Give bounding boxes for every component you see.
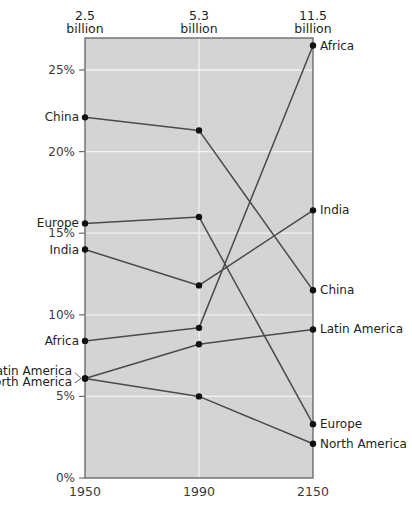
y-tick-label-10pct: 10% bbox=[48, 308, 75, 322]
left-label-china: China bbox=[45, 110, 79, 124]
right-label-africa: Africa bbox=[320, 39, 354, 53]
y-tick-label-0pct: 0% bbox=[56, 471, 75, 485]
data-point-africa-1990[interactable] bbox=[196, 325, 202, 331]
column-header-unit-1990: billion bbox=[180, 21, 217, 36]
data-point-north-america-1950[interactable] bbox=[82, 375, 88, 381]
right-label-north-america: North America bbox=[320, 437, 407, 451]
slopegraph-chart: 2.5billion5.3billion11.5billion 25%20%15… bbox=[0, 0, 412, 517]
right-label-china: China bbox=[320, 283, 354, 297]
y-tick-label-20pct: 20% bbox=[48, 145, 75, 159]
data-point-africa-1950[interactable] bbox=[82, 338, 88, 344]
data-point-europe-1990[interactable] bbox=[196, 214, 202, 220]
x-tick-label-1950: 1950 bbox=[69, 484, 101, 499]
column-header-unit-1950: billion bbox=[66, 21, 103, 36]
y-tick-label-25pct: 25% bbox=[48, 63, 75, 77]
data-point-india-1990[interactable] bbox=[196, 282, 202, 288]
x-tick-label-1990: 1990 bbox=[183, 484, 215, 499]
data-point-latin-america-2150[interactable] bbox=[310, 326, 316, 332]
column-headers: 2.5billion5.3billion11.5billion bbox=[66, 8, 331, 36]
data-point-india-1950[interactable] bbox=[82, 246, 88, 252]
data-point-north-america-1990[interactable] bbox=[196, 393, 202, 399]
data-point-latin-america-1990[interactable] bbox=[196, 341, 202, 347]
data-point-europe-1950[interactable] bbox=[82, 220, 88, 226]
data-point-india-2150[interactable] bbox=[310, 207, 316, 213]
y-axis-tick-labels: 25%20%15%10%5%0% bbox=[48, 63, 75, 485]
leader-line-north-america bbox=[75, 378, 81, 383]
right-series-labels: AfricaIndiaChinaLatin AmericaEuropeNorth… bbox=[320, 39, 407, 451]
left-label-africa: Africa bbox=[45, 334, 79, 348]
right-label-india: India bbox=[320, 203, 349, 217]
data-point-africa-2150[interactable] bbox=[310, 42, 316, 48]
right-label-europe: Europe bbox=[320, 417, 362, 431]
left-label-north-america: North America bbox=[0, 375, 72, 389]
left-label-europe: Europe bbox=[37, 216, 79, 230]
y-axis-ticks bbox=[79, 70, 85, 478]
y-tick-label-5pct: 5% bbox=[56, 389, 75, 403]
data-point-north-america-2150[interactable] bbox=[310, 441, 316, 447]
slopegraph-svg: 2.5billion5.3billion11.5billion 25%20%15… bbox=[0, 0, 412, 517]
leader-line-latin-america bbox=[75, 372, 81, 378]
data-point-china-1950[interactable] bbox=[82, 114, 88, 120]
column-header-unit-2150: billion bbox=[294, 21, 331, 36]
x-axis-tick-labels: 195019902150 bbox=[69, 484, 329, 499]
leader-lines bbox=[75, 372, 81, 383]
x-tick-label-2150: 2150 bbox=[297, 484, 329, 499]
data-point-china-2150[interactable] bbox=[310, 287, 316, 293]
data-point-china-1990[interactable] bbox=[196, 127, 202, 133]
data-point-europe-2150[interactable] bbox=[310, 421, 316, 427]
left-label-india: India bbox=[50, 243, 79, 257]
right-label-latin-america: Latin America bbox=[320, 322, 403, 336]
